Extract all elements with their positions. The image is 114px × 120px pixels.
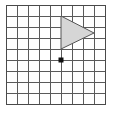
marked-point [59, 58, 64, 63]
figure-container [0, 0, 114, 120]
grid-figure-svg [0, 0, 114, 120]
